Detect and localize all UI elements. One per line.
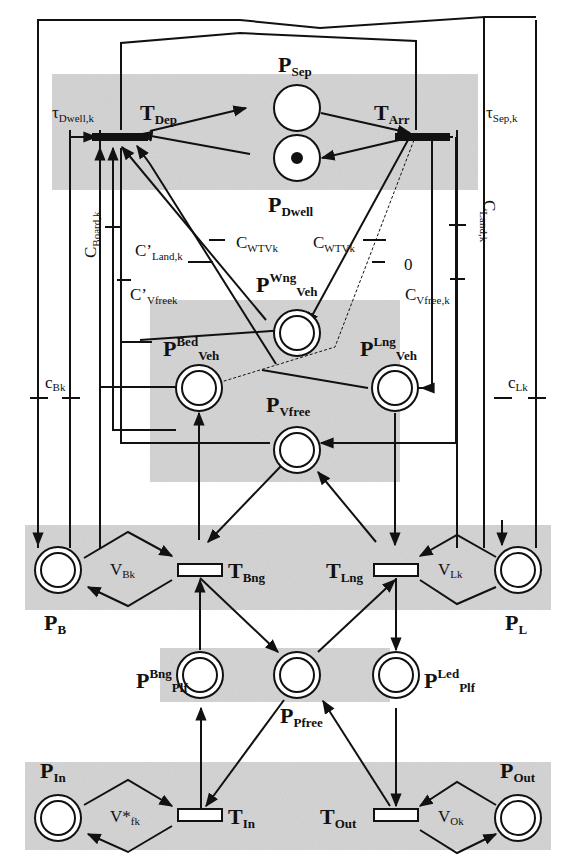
transition-dep[interactable] [92,133,148,141]
transition-arr[interactable] [395,133,450,141]
transition-lng[interactable] [374,564,418,576]
place-l[interactable] [495,547,541,593]
label-p-dwell: PDwell [268,192,314,219]
token [292,153,302,163]
place-b[interactable] [35,547,81,593]
place-in[interactable] [35,795,81,841]
transition-in[interactable] [178,809,222,821]
place-led-plf[interactable] [373,652,419,698]
place-wng-veh[interactable] [274,310,320,356]
label-c-vfree-prime: C’Vfreek [130,285,178,306]
place-lng-veh[interactable] [372,365,418,411]
place-vfree[interactable] [274,427,320,473]
place-bed-veh[interactable] [176,365,222,411]
label-p-led-plf: PLedPlf [424,666,476,695]
label-zero: 0 [404,255,413,274]
place-out[interactable] [495,795,541,841]
label-c-wtv-right: CWTVk [313,233,355,254]
transition-bng[interactable] [178,564,222,576]
label-p-sep: PSep [278,52,312,79]
label-c-lk: cLk [508,373,528,393]
label-c-land-prime: C’Land,k [135,241,183,262]
label-tau-sep: τSep,k [486,103,518,124]
label-c-land: CLand,k [478,200,499,243]
label-p-l: PL [505,610,527,637]
label-c-board: CBoard,k [81,211,102,258]
label-c-wtv-left: CWTVk [236,233,278,254]
label-p-pfree: PPfree [280,703,323,730]
petri-net-diagram: PSep PDwell PWngVeh PBedVeh PLngVeh PVfr… [0,0,574,864]
place-sep[interactable] [274,85,320,131]
label-p-b: PB [44,610,66,637]
label-p-wng-veh: PWngVeh [256,270,318,299]
place-pfree[interactable] [274,652,320,698]
label-c-bk: cBk [45,373,66,393]
transition-out[interactable] [374,809,418,821]
label-c-vfree: CVfree,k [405,285,450,306]
